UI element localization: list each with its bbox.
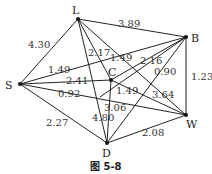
edge-weight-label: 3.64 — [152, 89, 174, 100]
node-label-l: L — [72, 4, 80, 17]
node-label-c: C — [108, 66, 116, 79]
node-l — [76, 17, 80, 21]
node-s — [18, 82, 22, 86]
edge-weight-label: 1.23 — [191, 71, 212, 82]
node-label-w: W — [186, 118, 198, 131]
figure-caption: 图 5-8 — [90, 161, 122, 172]
node-b — [184, 35, 188, 39]
edge-weight-label: 2.27 — [46, 117, 68, 128]
network-diagram: LBSCDW 4.303.891.492.410.922.272.173.644… — [0, 0, 212, 174]
edges — [20, 19, 186, 143]
edge-weight-label: 2.08 — [142, 127, 164, 138]
node-label-b: B — [191, 32, 199, 45]
edge-weight-label: 0.92 — [58, 88, 80, 99]
node-label-s: S — [5, 79, 13, 92]
edge-weight-label: 1.49 — [48, 64, 70, 75]
node-d — [105, 141, 109, 145]
edge-weight-label: 2.41 — [66, 75, 88, 86]
edge-weight-label: 2.17 — [88, 47, 110, 58]
edge-weight-label: 1.49 — [110, 52, 132, 63]
edge-weight-label: 2.16 — [140, 55, 162, 66]
node-label-d: D — [102, 147, 111, 160]
edge-weight-label: 4.80 — [92, 112, 114, 123]
edge-weight-label: 3.06 — [104, 102, 126, 113]
edge-weight-label: 3.89 — [118, 18, 140, 29]
edge-weight-label: 4.30 — [28, 39, 50, 50]
edge-weight-label: 1.49 — [116, 85, 138, 96]
nodes: LBSCDW — [5, 4, 199, 160]
edge-weight-label: 0.90 — [154, 66, 176, 77]
node-w — [184, 113, 188, 117]
